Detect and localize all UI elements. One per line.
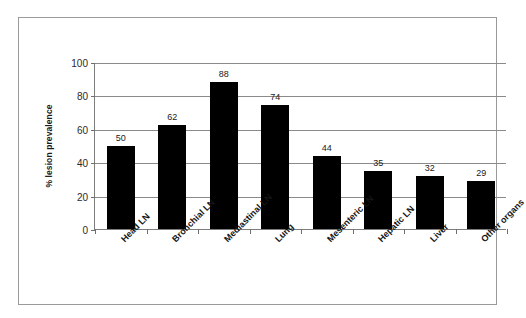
bar-value-label: 29 bbox=[476, 168, 486, 178]
bar[interactable] bbox=[313, 156, 341, 229]
y-axis-tick-label: 80 bbox=[58, 91, 95, 102]
x-axis-tick-mark bbox=[95, 229, 96, 234]
bar-group[interactable]: 29 bbox=[456, 63, 508, 229]
y-axis-tick-label: 100 bbox=[58, 58, 95, 69]
x-axis-tick-mark bbox=[353, 229, 354, 234]
bar-value-label: 44 bbox=[322, 143, 332, 153]
bar[interactable] bbox=[416, 176, 444, 229]
bar-value-label: 62 bbox=[167, 112, 177, 122]
x-axis-tick-mark bbox=[250, 229, 251, 234]
bar-group[interactable]: 44 bbox=[301, 63, 353, 229]
y-axis-title: % lesion prevalence bbox=[44, 71, 54, 221]
bar-value-label: 32 bbox=[425, 163, 435, 173]
bar-value-label: 50 bbox=[116, 133, 126, 143]
y-axis-tick-label: 20 bbox=[58, 191, 95, 202]
bar-group[interactable]: 32 bbox=[404, 63, 456, 229]
y-axis-tick-label: 60 bbox=[58, 124, 95, 135]
x-axis-tick-mark bbox=[198, 229, 199, 234]
bar[interactable] bbox=[467, 181, 495, 229]
x-axis-tick-mark bbox=[301, 229, 302, 234]
y-axis-tick-label: 40 bbox=[58, 158, 95, 169]
bar[interactable] bbox=[107, 146, 135, 230]
bar-group[interactable]: 62 bbox=[147, 63, 199, 229]
y-axis-tick-label: 0 bbox=[58, 225, 95, 236]
chart-figure-frame: % lesion prevalence 020406080100 5062887… bbox=[18, 17, 497, 305]
plot-area: % lesion prevalence 020406080100 5062887… bbox=[94, 63, 506, 230]
bar-value-label: 88 bbox=[219, 69, 229, 79]
bar-value-label: 35 bbox=[373, 158, 383, 168]
bar[interactable] bbox=[158, 125, 186, 229]
bar-group[interactable]: 50 bbox=[95, 63, 147, 229]
bar[interactable] bbox=[261, 105, 289, 229]
x-axis-tick-mark bbox=[507, 229, 508, 234]
bar-value-label: 74 bbox=[270, 92, 280, 102]
bars-layer: 5062887444353229 bbox=[95, 63, 506, 229]
x-axis-tick-mark bbox=[456, 229, 457, 234]
x-axis-tick-mark bbox=[404, 229, 405, 234]
x-axis-tick-mark bbox=[147, 229, 148, 234]
